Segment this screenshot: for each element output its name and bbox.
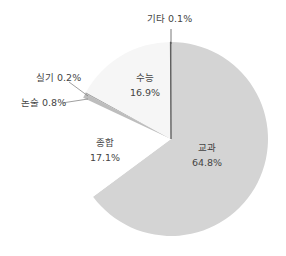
label-suneung-value: 16.9% — [125, 88, 165, 98]
label-gyogwa-value: 64.8% — [185, 158, 229, 168]
label-nonsul: 논술 0.8% — [21, 98, 66, 108]
label-gyogwa-name: 교과 — [198, 142, 216, 153]
label-jonghap-name: 종합 — [96, 137, 114, 148]
label-jonghap: 종합 17.1% — [83, 138, 127, 162]
label-suneung-name: 수능 — [136, 72, 154, 83]
label-suneung: 수능 16.9% — [125, 73, 165, 97]
label-gita: 기타 0.1% — [147, 14, 192, 24]
label-gyogwa: 교과 64.8% — [185, 143, 229, 167]
label-jonghap-value: 17.1% — [83, 153, 127, 163]
label-silgi: 실기 0.2% — [36, 73, 81, 83]
pie-chart — [0, 0, 286, 256]
leader-line-silgi — [69, 82, 88, 96]
